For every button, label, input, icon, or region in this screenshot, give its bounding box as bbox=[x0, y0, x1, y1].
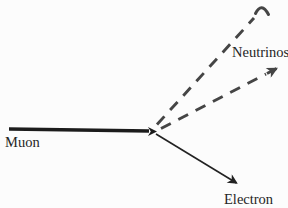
neutrino-lower-arrow-shaft bbox=[267, 69, 277, 74]
muon-line bbox=[9, 129, 149, 131]
neutrino-line-upper bbox=[157, 18, 254, 125]
electron-label: Electron bbox=[224, 191, 274, 207]
neutrinos-label: Neutrinos bbox=[232, 44, 288, 60]
muon-label: Muon bbox=[5, 134, 40, 150]
decay-diagram-canvas: Muon Neutrinos Electron bbox=[0, 0, 288, 208]
muon-decay-diagram: Muon Neutrinos Electron bbox=[0, 0, 288, 208]
electron-line bbox=[156, 134, 237, 183]
neutrino-upper-hook-arrow-icon bbox=[256, 8, 269, 15]
